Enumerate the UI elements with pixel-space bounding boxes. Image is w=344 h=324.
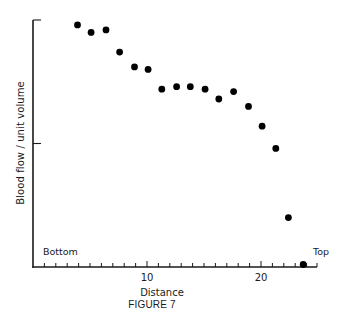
x-axis-end-label: Top: [313, 246, 329, 257]
data-points: [74, 22, 307, 268]
data-point: [202, 86, 209, 93]
data-point: [173, 83, 180, 90]
data-point: [116, 49, 123, 56]
data-point: [285, 214, 292, 221]
data-point: [300, 261, 307, 268]
x-tick-label-10: 10: [141, 272, 154, 283]
data-point: [88, 29, 95, 36]
data-point: [187, 83, 194, 90]
data-point: [74, 22, 81, 29]
data-point: [145, 66, 152, 73]
x-axis-label: Distance: [140, 287, 184, 298]
data-point: [158, 86, 165, 93]
x-axis-start-label: Bottom: [43, 246, 78, 257]
data-point: [259, 123, 266, 130]
axes: [32, 20, 317, 268]
scatter-chart: [0, 0, 344, 324]
data-point: [272, 145, 279, 152]
data-point: [103, 27, 110, 34]
data-point: [245, 103, 252, 110]
figure-caption: FIGURE 7: [128, 299, 176, 310]
data-point: [215, 96, 222, 103]
x-tick-label-20: 20: [255, 272, 268, 283]
data-point: [131, 64, 138, 71]
data-point: [230, 88, 237, 95]
y-axis-label: Blood flow / unit volume: [15, 81, 26, 205]
